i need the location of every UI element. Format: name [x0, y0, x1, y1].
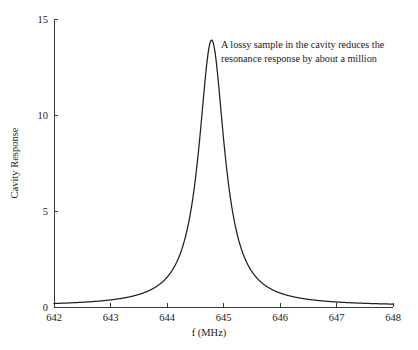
- x-tick-label: 644: [159, 312, 176, 323]
- y-tick-label: 15: [38, 14, 49, 25]
- y-tick-label: 0: [43, 302, 48, 313]
- annotation-line-2: resonance response by about a million: [221, 53, 377, 64]
- y-tick-label: 5: [43, 206, 48, 217]
- chart-canvas: 642643644645646647648 051015 f (MHz) Cav…: [0, 0, 418, 350]
- x-tick-label: 648: [385, 312, 401, 323]
- y-tick-label: 10: [38, 110, 49, 121]
- x-tick-label: 643: [103, 312, 119, 323]
- x-tick-label: 647: [329, 312, 345, 323]
- x-tick-label: 645: [216, 312, 232, 323]
- y-axis-tick-labels: 051015: [38, 14, 49, 313]
- annotation-line-1: A lossy sample in the cavity reduces the: [221, 39, 385, 50]
- x-tick-label: 646: [272, 312, 288, 323]
- cavity-response-figure: 642643644645646647648 051015 f (MHz) Cav…: [0, 0, 418, 350]
- x-axis-ticks: [54, 303, 393, 307]
- y-axis-ticks: [54, 19, 58, 307]
- x-axis-title: f (MHz): [192, 327, 227, 339]
- y-axis-title: Cavity Response: [9, 127, 20, 198]
- x-axis-tick-labels: 642643644645646647648: [46, 312, 401, 323]
- x-tick-label: 642: [46, 312, 62, 323]
- resonance-curve: [54, 40, 393, 304]
